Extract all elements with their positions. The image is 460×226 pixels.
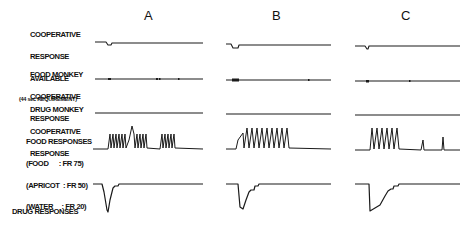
- trace-b-coop-available: [226, 44, 331, 48]
- trace-a-food-responses: [93, 126, 203, 149]
- mark-b-food-coop-1: [232, 79, 239, 82]
- trace-plot: [0, 0, 460, 226]
- trace-a-drug-responses: [93, 184, 203, 212]
- mark-a-food-coop-1: [108, 78, 111, 80]
- trace-c-food-responses: [355, 128, 460, 150]
- mark-c-food-coop-2: [409, 80, 411, 82]
- trace-b-food-responses: [226, 128, 331, 149]
- mark-c-food-coop-1: [366, 80, 369, 83]
- mark-a-food-coop-4: [178, 78, 180, 80]
- mark-a-food-coop-3: [159, 78, 161, 80]
- mark-a-food-coop-2: [156, 78, 158, 80]
- mark-b-food-coop-2: [308, 79, 310, 81]
- trace-a-coop-available: [95, 42, 203, 45]
- trace-c-drug-responses: [355, 184, 460, 211]
- trace-b-drug-responses: [226, 184, 331, 209]
- trace-c-coop-available: [355, 46, 460, 49]
